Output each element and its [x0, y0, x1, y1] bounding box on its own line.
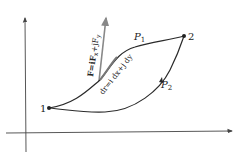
point-1-label: 1 [40, 103, 46, 114]
x-axis [6, 131, 232, 133]
point-2-label: 2 [188, 31, 194, 42]
force-vector [99, 18, 106, 81]
path-p2-label: P2 [160, 79, 172, 92]
path-p1-label: P1 [133, 31, 145, 44]
y-axis [25, 18, 26, 152]
point-1 [47, 106, 51, 110]
work-path-diagram: 1 2 P1 P2 F=iFx+jFy dr=i dx+j dy [0, 0, 243, 158]
point-2 [182, 34, 186, 38]
